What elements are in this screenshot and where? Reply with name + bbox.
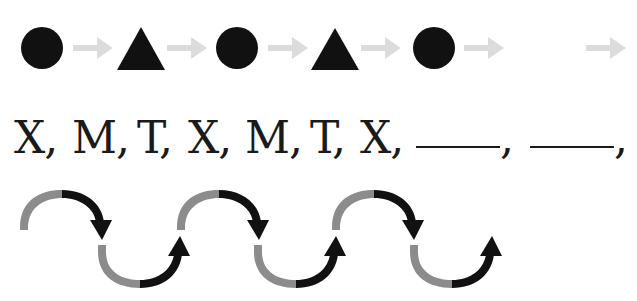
- top-arc-arrow-icon: [20, 190, 112, 240]
- sequence-letter: X,: [360, 108, 403, 168]
- arrow-right-icon: [268, 37, 308, 59]
- letter-sequence-row: X, M, T, X, M, T, X, , ,: [0, 108, 637, 168]
- answer-blank-1[interactable]: [416, 146, 500, 148]
- sequence-letter: X,: [14, 108, 57, 168]
- top-arc-arrow-icon: [332, 190, 424, 240]
- circle-shape: [21, 27, 63, 69]
- blank-comma: ,: [614, 108, 628, 168]
- sequence-letter: M,: [72, 108, 129, 168]
- arrow-right-icon: [464, 37, 504, 59]
- blank-comma: ,: [500, 108, 514, 168]
- sequence-letter: T,: [137, 108, 172, 168]
- triangle-shape: [311, 28, 359, 70]
- circle-shape: [413, 27, 455, 69]
- triangle-shape: [117, 27, 165, 70]
- circle-shape: [216, 27, 258, 69]
- sequence-letter: M,: [245, 108, 302, 168]
- arrow-right-icon: [361, 37, 401, 59]
- shape-pattern-row: [0, 0, 637, 100]
- bottom-arc-arrow-icon: [98, 236, 190, 288]
- arrow-right-icon: [167, 37, 207, 59]
- bottom-arc-arrow-icon: [410, 236, 502, 288]
- sequence-letter: T,: [310, 108, 345, 168]
- wave-arrows-row: [0, 170, 637, 301]
- arrow-right-icon: [586, 37, 626, 59]
- top-arc-arrow-icon: [177, 190, 269, 240]
- bottom-arc-arrow-icon: [254, 236, 346, 288]
- answer-blank-2[interactable]: [530, 146, 614, 148]
- sequence-letter: X,: [188, 108, 231, 168]
- arrow-right-icon: [73, 37, 113, 59]
